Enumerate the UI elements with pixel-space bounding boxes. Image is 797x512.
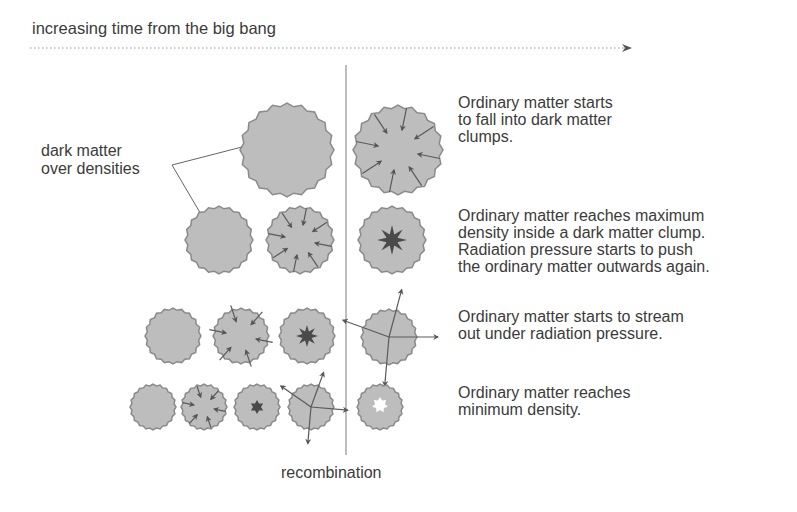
infall-clump bbox=[209, 305, 272, 366]
dark-matter-clump bbox=[130, 384, 176, 430]
dense-core-clump bbox=[234, 384, 280, 430]
dark-matter-clump bbox=[185, 206, 253, 274]
evolution-diagram bbox=[0, 0, 797, 512]
void-clump bbox=[357, 384, 403, 430]
outflow-clump bbox=[281, 372, 348, 443]
dense-core-clump bbox=[279, 308, 335, 364]
dark-matter-clump bbox=[240, 103, 334, 197]
dark-matter-clump bbox=[145, 308, 201, 364]
dense-core-clump bbox=[358, 206, 426, 274]
infall-clump bbox=[181, 384, 227, 430]
time-arrow-icon bbox=[30, 44, 632, 52]
outflow-clump bbox=[343, 290, 438, 386]
infall-clump bbox=[353, 105, 443, 195]
infall-clump bbox=[266, 206, 334, 274]
